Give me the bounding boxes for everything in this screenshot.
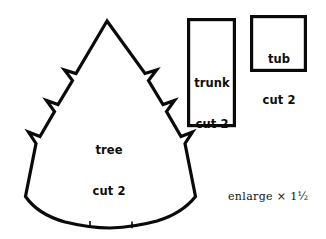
tree-label-line-2: cut 2 (78, 185, 140, 199)
pattern-sheet: tree cut 2 trunk cut 2 tub cut 2 enlarge… (0, 0, 326, 239)
enlarge-instruction-note: enlarge × 1½ (228, 190, 309, 203)
tub-piece-label: tub cut 2 (249, 26, 309, 135)
trunk-label-line-1: trunk (186, 77, 238, 91)
trunk-piece-label: trunk cut 2 (186, 50, 238, 159)
tree-label-line-1: tree (78, 144, 140, 158)
tree-piece-label: tree cut 2 (78, 117, 140, 226)
tub-label-line-2: cut 2 (249, 94, 309, 108)
tub-label-line-1: tub (249, 53, 309, 67)
trunk-label-line-2: cut 2 (186, 118, 238, 132)
